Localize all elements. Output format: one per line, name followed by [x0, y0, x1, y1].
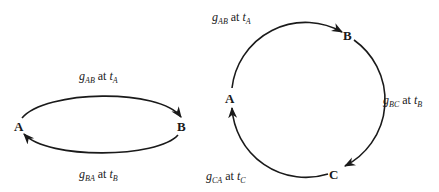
edge-label-gbc: gBCattB	[383, 93, 422, 109]
edge-arrow-a-to-b	[232, 22, 342, 88]
node-a: A	[14, 119, 24, 134]
edge-label-gba: gBAattB	[79, 167, 118, 183]
edge-arrow-c-to-a	[232, 108, 328, 177]
edge-label-gab: gABattA	[212, 10, 251, 26]
node-c: C	[329, 167, 338, 182]
edge-label-gca: gCAattC	[206, 169, 246, 185]
edge-label-gab: gABattA	[79, 69, 118, 85]
node-b: B	[343, 28, 352, 43]
node-b: B	[177, 119, 186, 134]
edge-arrow-a-to-b	[22, 96, 181, 118]
edge-arrow-b-to-a	[24, 134, 178, 153]
node-a: A	[225, 91, 235, 106]
right-three-node-diagram: A B C gABattA gBCattB gCAattC	[206, 10, 422, 185]
left-two-node-diagram: A B gABattA gBAattB	[14, 69, 186, 183]
diagram-canvas: A B gABattA gBAattB A B C gABattA gBCatt…	[0, 0, 439, 192]
edge-arrow-b-to-c	[345, 40, 385, 166]
